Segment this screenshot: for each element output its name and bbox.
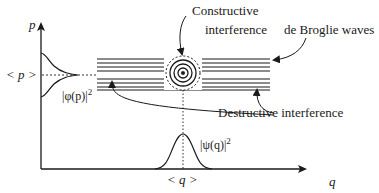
- de-broglie-arrow: [274, 38, 306, 60]
- constructive-arrow: [180, 16, 186, 54]
- p-axis-label: p: [29, 18, 36, 31]
- momentum-distribution-label: |φ(p)|2: [62, 88, 92, 102]
- constructive-interference-rings: [164, 56, 202, 90]
- p-mean-label: < p >: [6, 68, 37, 81]
- momentum-exponent: 2: [88, 87, 93, 97]
- position-exponent: 2: [226, 136, 231, 146]
- q-axis-label: q: [329, 175, 336, 188]
- q-mean-label: < q >: [167, 173, 198, 186]
- position-distribution-text: |ψ(q)|: [200, 138, 226, 152]
- wave-packet-diagram: p q < p > < q > |φ(p)|2 |ψ(q)|2 Construc…: [0, 0, 379, 193]
- destructive-label: Destructive interference: [218, 106, 343, 119]
- momentum-distribution-text: |φ(p)|: [62, 89, 88, 103]
- constructive-label-line2: interference: [205, 23, 267, 36]
- de-broglie-label: de Broglie waves: [284, 23, 374, 36]
- position-distribution-label: |ψ(q)|2: [200, 137, 231, 151]
- constructive-label-line1: Constructive: [192, 4, 258, 17]
